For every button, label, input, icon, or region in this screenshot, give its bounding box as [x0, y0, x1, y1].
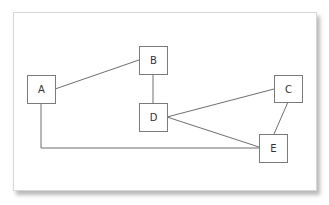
node-b-label: B [150, 55, 157, 66]
node-a: A [27, 75, 56, 104]
node-d: D [139, 103, 168, 132]
edge-d-c [167, 89, 274, 117]
edge-a-b [55, 60, 139, 89]
edge-c-e [274, 102, 288, 134]
node-d-label: D [150, 112, 158, 123]
node-e: E [259, 134, 288, 163]
node-e-label: E [270, 143, 276, 154]
node-c: C [274, 75, 303, 103]
node-c-label: C [285, 84, 292, 95]
node-b: B [139, 46, 168, 75]
node-a-label: A [38, 84, 45, 95]
edge-d-e [167, 117, 259, 147]
diagram-canvas: A B C D E [0, 0, 329, 205]
